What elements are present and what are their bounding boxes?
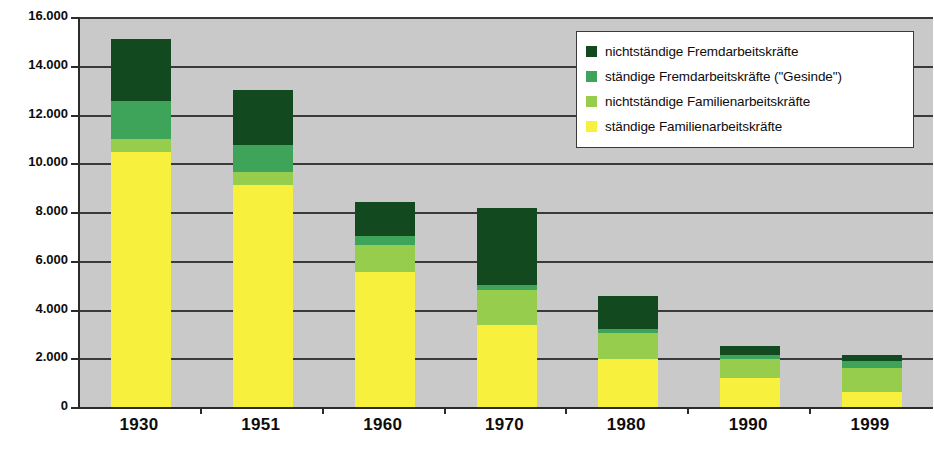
x-axis-tick-label: 1990 — [703, 415, 793, 435]
y-axis-tick-label: 0 — [6, 398, 68, 413]
x-axis-tick-mark — [322, 407, 324, 414]
legend-swatch-icon — [586, 96, 597, 107]
bar-segment — [720, 346, 780, 355]
bar-segment — [111, 101, 171, 139]
bar-segment — [355, 245, 415, 272]
bar-segment — [842, 361, 902, 368]
x-axis-tick-label: 1930 — [94, 415, 184, 435]
y-axis-tick-label: 6.000 — [6, 252, 68, 267]
bar-segment — [355, 236, 415, 245]
bar-segment — [111, 139, 171, 152]
bar — [842, 355, 902, 407]
bar-segment — [233, 90, 293, 145]
bar — [111, 39, 171, 407]
legend-swatch-icon — [586, 71, 597, 82]
bar-segment — [598, 296, 658, 329]
legend: nichtständige Fremdarbeitskräfteständige… — [576, 31, 914, 148]
bar-segment — [720, 378, 780, 407]
y-axis-tick-label: 2.000 — [6, 349, 68, 364]
gridline — [80, 17, 933, 19]
x-axis-tick-label: 1999 — [825, 415, 915, 435]
x-axis-tick-label: 1951 — [216, 415, 306, 435]
bar-segment — [111, 39, 171, 101]
x-axis-tick-label: 1980 — [581, 415, 671, 435]
bar-segment — [355, 202, 415, 236]
scan-edge — [0, 0, 934, 2]
y-axis-tick-label: 14.000 — [6, 57, 68, 72]
y-axis-tick-mark — [71, 163, 78, 165]
x-axis-tick-mark — [809, 407, 811, 414]
x-axis-tick-mark — [444, 407, 446, 414]
legend-swatch-icon — [586, 121, 597, 132]
y-axis-tick-mark — [71, 358, 78, 360]
y-axis-tick-mark — [71, 407, 78, 409]
bar-segment — [842, 368, 902, 392]
bar-segment — [477, 290, 537, 325]
x-axis-tick-label: 1970 — [460, 415, 550, 435]
y-axis-tick-mark — [71, 212, 78, 214]
bar-segment — [233, 145, 293, 172]
bar-segment — [355, 272, 415, 407]
y-axis-tick-mark — [71, 115, 78, 117]
bar-segment — [720, 359, 780, 377]
y-axis-tick-label: 4.000 — [6, 301, 68, 316]
bar-segment — [233, 185, 293, 407]
y-axis-tick-label: 12.000 — [6, 106, 68, 121]
bar-segment — [842, 392, 902, 407]
bar-segment — [477, 208, 537, 285]
stacked-bar-chart: Anzahl der Personen 16.00014.00012.00010… — [0, 0, 934, 458]
legend-item-label: ständige Familienarbeitskräfte — [605, 119, 782, 134]
bar-segment — [598, 333, 658, 360]
legend-swatch-icon — [586, 46, 597, 57]
y-axis-tick-label: 16.000 — [6, 8, 68, 23]
x-axis-tick-mark — [200, 407, 202, 414]
x-axis-tick-mark — [565, 407, 567, 414]
bar — [720, 346, 780, 407]
legend-item: ständige Familienarbeitskräfte — [586, 114, 902, 139]
bar — [233, 90, 293, 407]
bar-segment — [111, 152, 171, 407]
x-axis-tick-mark — [687, 407, 689, 414]
legend-item-label: nichtständige Fremdarbeitskräfte — [605, 44, 798, 59]
bar — [598, 296, 658, 407]
legend-item: nichtständige Familienarbeitskräfte — [586, 89, 902, 114]
bar-segment — [598, 359, 658, 407]
y-axis-tick-mark — [71, 310, 78, 312]
y-axis-tick-labels: 16.00014.00012.00010.0008.0006.0004.0002… — [0, 17, 68, 407]
bar — [355, 202, 415, 407]
y-axis-tick-mark — [71, 17, 78, 19]
y-axis-tick-mark — [71, 261, 78, 263]
y-axis-tick-label: 10.000 — [6, 154, 68, 169]
bar-segment — [233, 172, 293, 185]
x-axis-tick-labels: 1930195119601970198019901999 — [78, 415, 931, 455]
legend-item-label: nichtständige Familienarbeitskräfte — [605, 94, 810, 109]
legend-item: ständige Fremdarbeitskräfte ("Gesinde") — [586, 64, 902, 89]
y-axis-tick-mark — [71, 66, 78, 68]
legend-item: nichtständige Fremdarbeitskräfte — [586, 39, 902, 64]
legend-item-label: ständige Fremdarbeitskräfte ("Gesinde") — [605, 69, 842, 84]
gridline — [80, 163, 933, 165]
x-axis-tick-label: 1960 — [338, 415, 428, 435]
y-axis-tick-label: 8.000 — [6, 203, 68, 218]
bar — [477, 208, 537, 407]
bar-segment — [477, 325, 537, 407]
